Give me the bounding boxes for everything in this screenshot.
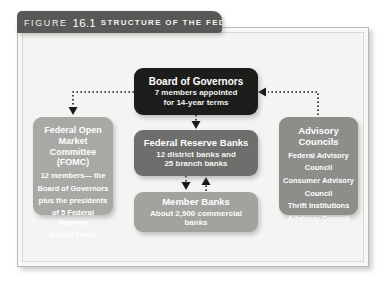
figure-label: FIGURE <box>24 18 68 28</box>
fomc-title-line-1: Federal Open <box>44 125 102 136</box>
fomc-title-line-3: Committee (FOMC) <box>37 147 109 169</box>
box-board-of-governors: Board of Governors 7 members appointed f… <box>134 68 258 115</box>
figure-number: 16.1 <box>73 17 96 29</box>
box-advisory-councils: Advisory Councils Federal Advisory Counc… <box>279 117 358 215</box>
advisory-councils-title-line-1: Advisory <box>298 125 339 136</box>
fomc-body-line-5: district banks <box>49 230 98 239</box>
fomc-body-line-3: plus the presidents <box>39 196 108 205</box>
advisory-councils-body-line-4: Council <box>305 189 333 199</box>
fomc-title-line-2: Market <box>58 136 87 147</box>
advisory-councils-title-line-2: Councils <box>298 136 338 147</box>
fomc-body-line-4: of 5 Federal Reserve <box>37 208 109 227</box>
fomc-body-line-2: Board of Governors <box>38 184 109 193</box>
board-of-governors-line-2: for 14-year terms <box>164 98 229 107</box>
advisory-councils-body-line-5: Thrift Institutions <box>288 201 350 211</box>
box-federal-reserve-banks: Federal Reserve Banks 12 district banks … <box>134 130 258 176</box>
figure-header-tab: FIGURE 16.1 STRUCTURE OF THE FED <box>17 11 222 33</box>
figure-header-content: FIGURE 16.1 STRUCTURE OF THE FED <box>24 15 218 30</box>
board-of-governors-line-1: 7 members appointed <box>155 88 238 97</box>
advisory-councils-body-line-3: Consumer Advisory <box>283 176 354 186</box>
member-banks-line-1: About 2,900 commercial banks <box>138 209 254 228</box>
federal-reserve-banks-line-2: 25 branch banks <box>164 159 227 168</box>
box-federal-open-market-committee: Federal Open Market Committee (FOMC) 12 … <box>33 117 113 215</box>
board-of-governors-title: Board of Governors <box>149 76 243 87</box>
figure-title: STRUCTURE OF THE FED <box>101 18 222 27</box>
box-member-banks: Member Banks About 2,900 commercial bank… <box>134 192 258 232</box>
advisory-councils-body-line-2: Council <box>305 163 333 173</box>
federal-reserve-banks-title: Federal Reserve Banks <box>144 138 249 149</box>
member-banks-title: Member Banks <box>162 197 230 208</box>
advisory-councils-body-line-1: Federal Advisory <box>288 151 349 161</box>
fomc-body-line-1: 12 members— the <box>41 171 106 180</box>
federal-reserve-banks-line-1: 12 district banks and <box>156 150 236 159</box>
advisory-councils-body-line-6: Advisory Council <box>288 214 350 224</box>
figure-container: FIGURE 16.1 STRUCTURE OF THE FED <box>0 0 389 294</box>
